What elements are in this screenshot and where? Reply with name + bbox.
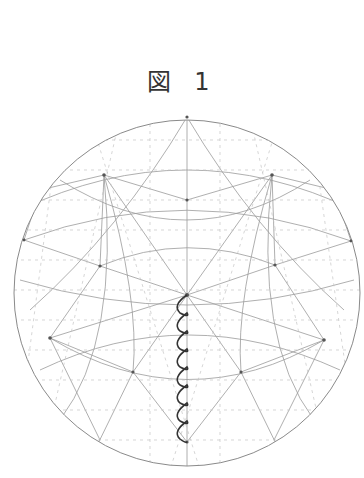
geodesic-sphere	[0, 0, 364, 478]
zigzag-line	[177, 295, 187, 442]
